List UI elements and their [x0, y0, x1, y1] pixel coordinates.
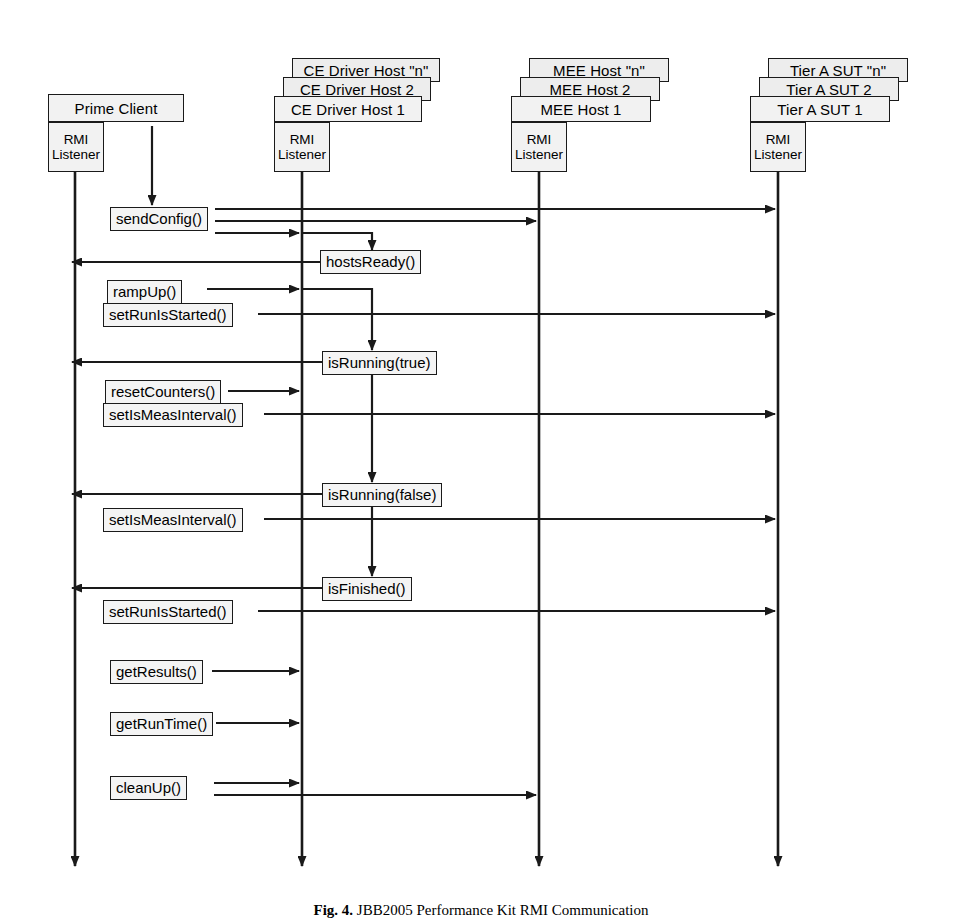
message-label-set-run-is-started-2[interactable]: setRunIsStarted(): [103, 600, 233, 624]
figure-caption: Fig. 4. JBB2005 Performance Kit RMI Comm…: [0, 902, 962, 919]
message-label-is-running-false[interactable]: isRunning(false): [322, 483, 442, 507]
rmi-listener-line1: RMI: [527, 132, 552, 147]
figure-caption-prefix: Fig. 4.: [314, 902, 354, 918]
message-label-get-run-time[interactable]: getRunTime(): [110, 712, 213, 736]
rmi-listener-line2: Listener: [515, 147, 563, 162]
message-label-send-config[interactable]: sendConfig(): [110, 207, 208, 231]
object-box-mee-host-1[interactable]: MEE Host 1: [511, 96, 651, 122]
rmi-listener-line1: RMI: [64, 132, 89, 147]
sequence-diagram-canvas: Prime Client RMI Listener CE Driver Host…: [0, 0, 962, 922]
rmi-listener-line2: Listener: [754, 147, 802, 162]
rmi-listener-box-mee-host[interactable]: RMI Listener: [511, 122, 567, 172]
branch-send-config-to-hosts-ready: [302, 233, 372, 250]
message-label-hosts-ready[interactable]: hostsReady(): [320, 250, 421, 274]
figure-caption-text: JBB2005 Performance Kit RMI Communicatio…: [357, 902, 649, 918]
message-label-reset-counters[interactable]: resetCounters(): [105, 380, 221, 404]
message-label-set-run-is-started[interactable]: setRunIsStarted(): [103, 303, 233, 327]
rmi-listener-line2: Listener: [278, 147, 326, 162]
object-box-prime-client[interactable]: Prime Client: [48, 94, 184, 122]
object-box-tier-a-sut-1[interactable]: Tier A SUT 1: [750, 96, 890, 122]
rmi-listener-box-ce-driver-host[interactable]: RMI Listener: [274, 122, 330, 172]
message-label-is-finished[interactable]: isFinished(): [322, 577, 412, 601]
object-box-ce-driver-host-1[interactable]: CE Driver Host 1: [274, 96, 422, 122]
message-label-ramp-up[interactable]: rampUp(): [107, 280, 182, 304]
message-label-set-is-meas-interval-2[interactable]: setIsMeasInterval(): [103, 508, 243, 532]
branch-ramp-up-to-is-running: [302, 289, 372, 350]
message-label-get-results[interactable]: getResults(): [110, 660, 203, 684]
rmi-listener-line1: RMI: [290, 132, 315, 147]
message-label-set-is-meas-interval-1[interactable]: setIsMeasInterval(): [103, 403, 243, 427]
message-label-is-running-true[interactable]: isRunning(true): [322, 351, 437, 375]
message-label-clean-up[interactable]: cleanUp(): [110, 776, 187, 800]
rmi-listener-box-tier-a-sut[interactable]: RMI Listener: [750, 122, 806, 172]
rmi-listener-line1: RMI: [766, 132, 791, 147]
rmi-listener-box-prime-client[interactable]: RMI Listener: [48, 122, 104, 172]
rmi-listener-line2: Listener: [52, 147, 100, 162]
